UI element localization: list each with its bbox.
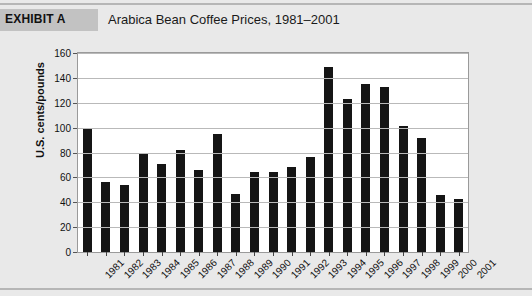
x-tick-label: 2000: [456, 257, 480, 281]
x-tick-label: 1987: [214, 257, 238, 281]
x-tick-label: 1988: [233, 257, 257, 281]
y-tick-mark: [73, 53, 77, 54]
bar-1983: [120, 185, 129, 252]
y-tick-mark: [73, 177, 77, 178]
gridline: [78, 227, 468, 228]
bar-chart: U.S. cents/pounds 020406080100120140160 …: [0, 38, 532, 288]
bar-1994: [324, 67, 333, 252]
gridline: [78, 78, 468, 79]
y-tick-label: 0: [45, 247, 71, 258]
top-divider: [0, 3, 532, 5]
x-tick-label: 1994: [344, 257, 368, 281]
bar-2001: [454, 199, 463, 252]
bar-1991: [269, 172, 278, 252]
x-tick-label: 1985: [177, 257, 201, 281]
plot-area: [77, 52, 469, 253]
bar-2000: [436, 195, 445, 252]
x-tick-label: 1998: [419, 257, 443, 281]
y-tick-label: 140: [45, 72, 71, 83]
y-tick-label: 40: [45, 197, 71, 208]
x-tick-label: 1981: [103, 257, 127, 281]
y-tick-label: 120: [45, 97, 71, 108]
y-tick-label: 60: [45, 172, 71, 183]
x-tick-label: 1989: [251, 257, 275, 281]
y-tick-mark: [73, 227, 77, 228]
bottom-divider: [0, 288, 532, 290]
x-tick-label: 1992: [307, 257, 331, 281]
gridline: [78, 202, 468, 203]
exhibit-title: Arabica Bean Coffee Prices, 1981–2001: [108, 12, 340, 27]
x-tick-label: 1984: [159, 257, 183, 281]
y-tick-mark: [73, 78, 77, 79]
gridline: [78, 128, 468, 129]
gridline: [78, 53, 468, 54]
x-tick-label: 1991: [289, 257, 313, 281]
x-tick-label: 1997: [400, 257, 424, 281]
bar-1982: [101, 182, 110, 252]
gridline: [78, 153, 468, 154]
exhibit-page: EXHIBIT A Arabica Bean Coffee Prices, 19…: [0, 0, 532, 296]
bar-1995: [343, 99, 352, 252]
x-tick-label: 1986: [196, 257, 220, 281]
x-tick-label: 1996: [381, 257, 405, 281]
bar-1986: [176, 150, 185, 252]
y-tick-label: 80: [45, 147, 71, 158]
y-tick-label: 160: [45, 48, 71, 59]
gridline: [78, 103, 468, 104]
y-tick-mark: [73, 103, 77, 104]
bar-1998: [399, 126, 408, 252]
y-tick-mark: [73, 128, 77, 129]
y-tick-mark: [73, 153, 77, 154]
x-axis-labels: 1981198219831984198519861987198819891990…: [77, 253, 469, 293]
bar-1990: [250, 172, 259, 252]
bar-1987: [194, 170, 203, 252]
bar-1992: [287, 167, 296, 252]
x-tick-label: 1999: [437, 257, 461, 281]
x-tick-label: 1982: [121, 257, 145, 281]
y-tick-label: 100: [45, 122, 71, 133]
bar-1999: [417, 138, 426, 252]
y-tick-mark: [73, 202, 77, 203]
x-tick-label: 1983: [140, 257, 164, 281]
y-tick-label: 20: [45, 222, 71, 233]
exhibit-tag: EXHIBIT A: [5, 12, 66, 26]
x-tick-label: 1995: [363, 257, 387, 281]
bar-1981: [83, 129, 92, 252]
exhibit-header: EXHIBIT A Arabica Bean Coffee Prices, 19…: [0, 9, 532, 33]
x-tick-label: 1990: [270, 257, 294, 281]
gridline: [78, 177, 468, 178]
x-tick-label: 2001: [474, 257, 498, 281]
bar-1993: [306, 157, 315, 252]
x-tick-label: 1993: [326, 257, 350, 281]
